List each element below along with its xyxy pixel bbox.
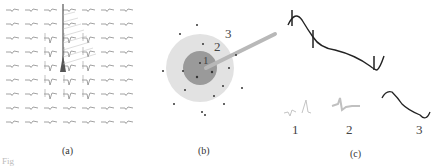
caption-a: (a) bbox=[62, 145, 73, 156]
panel-b: 1 2 3 (b) bbox=[140, 0, 290, 167]
trace-label-2: 2 bbox=[346, 122, 353, 138]
composite-trace bbox=[288, 16, 384, 70]
inner-zone bbox=[183, 51, 217, 85]
panel-c: 1 2 3 (c) bbox=[280, 0, 438, 167]
caption-b: (b) bbox=[198, 145, 210, 156]
trace-label-1: 1 bbox=[292, 122, 299, 138]
waveform-grid bbox=[0, 0, 140, 150]
panel-a: (a) bbox=[0, 0, 140, 167]
trace-decomposition bbox=[280, 0, 438, 150]
zone-label-2: 2 bbox=[214, 39, 221, 55]
trace-1-spikes bbox=[284, 100, 311, 116]
fig-label: Fig bbox=[2, 156, 14, 166]
trace-3-slow bbox=[382, 92, 430, 118]
trace-2-intermediate bbox=[332, 98, 360, 110]
zone-diagram bbox=[140, 0, 290, 150]
zone-label-3: 3 bbox=[225, 26, 232, 42]
caption-c: (c) bbox=[350, 148, 361, 159]
zone-label-1: 1 bbox=[203, 54, 209, 66]
trace-label-3: 3 bbox=[416, 122, 423, 138]
